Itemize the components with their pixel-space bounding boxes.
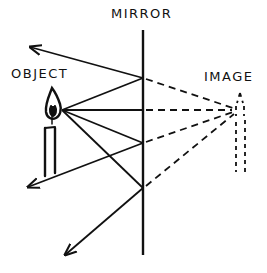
mirror-label: MIRROR <box>111 7 172 20</box>
mirror-ray-diagram: MIRROR OBJECT IMAGE <box>0 0 267 273</box>
image-label: IMAGE <box>204 70 254 83</box>
virtual-image-candle-icon <box>236 93 245 172</box>
reflected-ray-3 <box>65 188 143 255</box>
incident-ray-4 <box>62 110 143 188</box>
virtual-rays <box>146 79 234 186</box>
virtual-ray-3 <box>146 112 233 142</box>
virtual-ray-4 <box>146 114 234 186</box>
incident-rays <box>62 78 143 188</box>
incident-ray-1 <box>62 78 143 110</box>
candle-object-icon <box>45 88 61 176</box>
diagram-canvas <box>0 0 267 273</box>
object-label: OBJECT <box>11 67 68 80</box>
incident-ray-3 <box>62 110 143 143</box>
